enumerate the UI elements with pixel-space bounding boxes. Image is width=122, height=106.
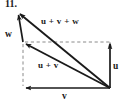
vector-w-arrow [19, 15, 24, 42]
vector-label-u-plus-v: u + v [38, 61, 59, 70]
vector-diagram: 11. w u + v + w u + v u v [0, 0, 122, 106]
figure-item-number: 11. [5, 0, 17, 9]
vector-label-u-plus-v-plus-w: u + v + w [41, 17, 79, 26]
vector-label-u: u [113, 62, 118, 72]
vector-label-w: w [5, 30, 12, 40]
vector-label-v: v [62, 92, 67, 102]
